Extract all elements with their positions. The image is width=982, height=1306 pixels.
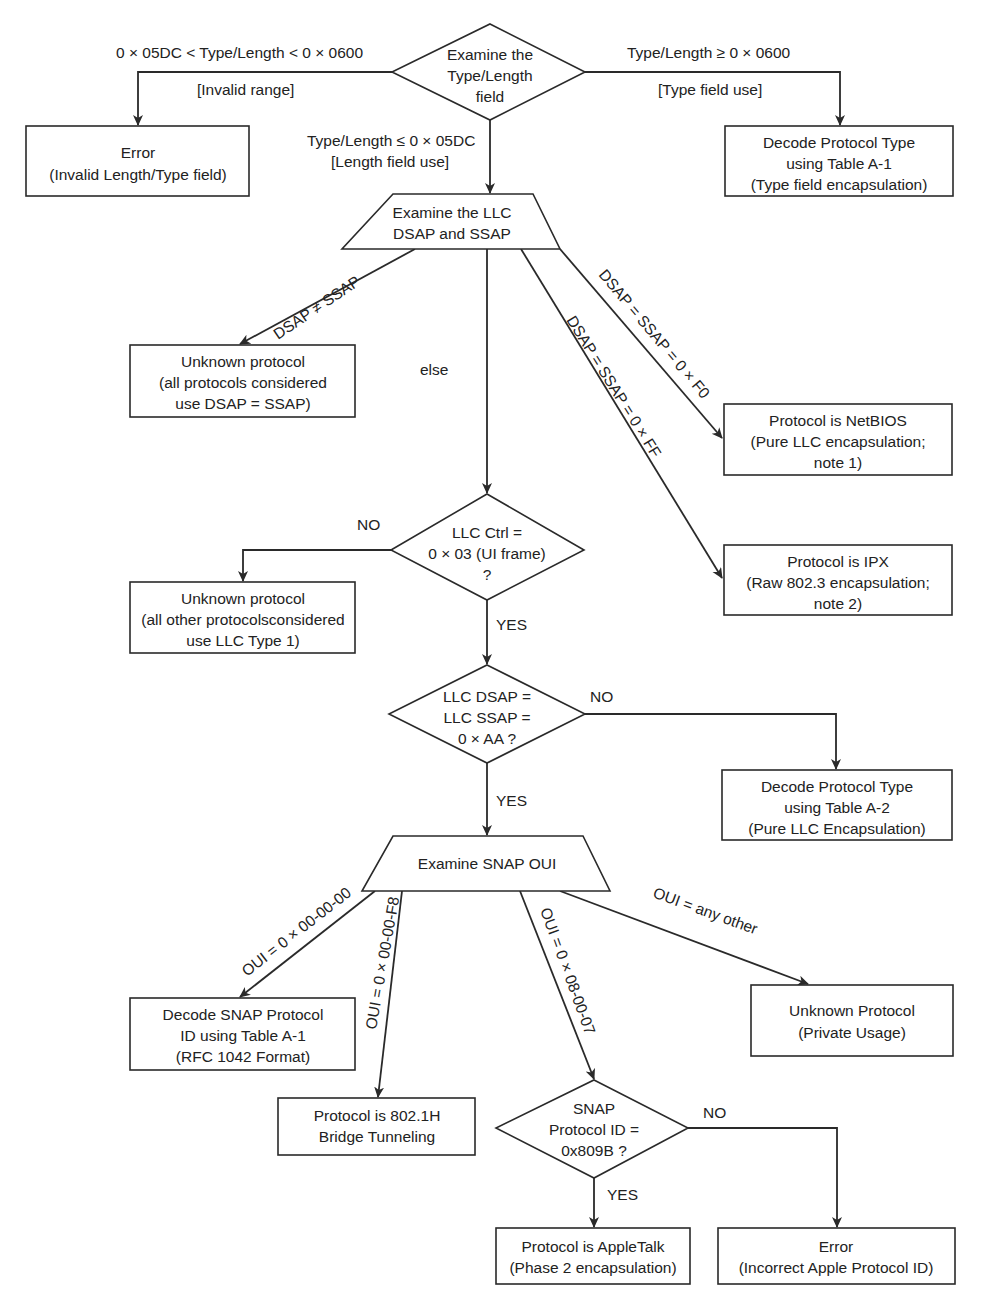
node-line: Examine SNAP OUI: [418, 855, 556, 872]
box-unknown-protocol-llc1: Unknown protocol (all other protocolscon…: [130, 582, 355, 653]
edge-label-else: else: [420, 361, 448, 378]
node-line: Decode Protocol Type: [763, 134, 915, 151]
process-examine-snap-oui: Examine SNAP OUI: [362, 836, 610, 891]
edge-llc-ctrl-no: [243, 550, 391, 581]
box-error-invalid-length: Error (Invalid Length/Type field): [26, 126, 249, 196]
node-line: Unknown Protocol: [789, 1002, 915, 1019]
decision-snap-protocol-id: SNAP Protocol ID = 0x809B ?: [496, 1080, 688, 1178]
node-line: DSAP and SSAP: [393, 225, 511, 242]
edge-label-snap-yes: YES: [607, 1186, 638, 1203]
edge-label-length-field-cond: Type/Length ≤ 0 × 05DC: [307, 132, 475, 149]
node-line: Protocol is 802.1H: [314, 1107, 441, 1124]
node-line: ID using Table A-1: [180, 1027, 306, 1044]
node-line: note 1): [814, 454, 862, 471]
node-line: (Incorrect Apple Protocol ID): [739, 1259, 934, 1276]
node-line: Unknown protocol: [181, 590, 305, 607]
node-line: Error: [121, 144, 155, 161]
edge-label-snap-no: NO: [703, 1104, 726, 1121]
node-line: (Raw 802.3 encapsulation;: [746, 574, 930, 591]
box-bridge-tunneling: Protocol is 802.1H Bridge Tunneling: [278, 1098, 475, 1155]
edge-label-aa-yes: YES: [496, 792, 527, 809]
edge-aa-no: [585, 714, 836, 769]
edge-label-aa-no: NO: [590, 688, 613, 705]
edge-label-oui-080007: OUI = 0 × 08-00-07: [537, 905, 599, 1036]
node-line: (Private Usage): [798, 1024, 906, 1041]
edge-label-length-field-note: [Length field use]: [331, 153, 449, 170]
edge-label-oui-0000f8: OUI = 0 × 00-00-F8: [362, 895, 402, 1030]
node-line: LLC DSAP =: [443, 688, 531, 705]
node-line: (Pure LLC encapsulation;: [751, 433, 926, 450]
box-unknown-protocol-dsap: Unknown protocol (all protocols consider…: [130, 345, 355, 417]
edge-label-dsap-ne-ssap: DSAP ≠ SSAP: [270, 272, 363, 342]
edge-oui-000000: [240, 891, 375, 997]
box-unknown-private: Unknown Protocol (Private Usage): [751, 985, 953, 1056]
node-line: using Table A-2: [784, 799, 890, 816]
node-line: 0 × AA ?: [458, 730, 517, 747]
edge-label-llc-ctrl-no: NO: [357, 516, 380, 533]
box-error-apple-id: Error (Incorrect Apple Protocol ID): [718, 1228, 955, 1284]
node-line: Bridge Tunneling: [319, 1128, 435, 1145]
node-line: Decode SNAP Protocol: [163, 1006, 324, 1023]
edge-label-type-field-note: [Type field use]: [658, 81, 762, 98]
node-line: (Pure LLC Encapsulation): [748, 820, 926, 837]
node-line: LLC SSAP =: [443, 709, 530, 726]
box-ipx: Protocol is IPX (Raw 802.3 encapsulation…: [724, 545, 952, 615]
box-decode-table-a2: Decode Protocol Type using Table A-2 (Pu…: [722, 770, 952, 840]
decision-llc-dsap-ssap-aa: LLC DSAP = LLC SSAP = 0 × AA ?: [389, 665, 585, 763]
node-line: Unknown protocol: [181, 353, 305, 370]
node-line: (Phase 2 encapsulation): [509, 1259, 676, 1276]
node-line: Decode Protocol Type: [761, 778, 913, 795]
node-line: note 2): [814, 595, 862, 612]
node-line: using Table A-1: [786, 155, 892, 172]
node-line: LLC Ctrl =: [452, 524, 522, 541]
edge-label-llc-ctrl-yes: YES: [496, 616, 527, 633]
node-line: (all protocols considered: [159, 374, 327, 391]
node-line: (all other protocolsconsidered: [141, 611, 344, 628]
node-line: use LLC Type 1): [186, 632, 299, 649]
node-line: Examine the: [447, 46, 533, 63]
node-line: 0x809B ?: [561, 1142, 627, 1159]
node-line: Protocol is IPX: [787, 553, 889, 570]
protocol-decode-flowchart: 0 × 05DC < Type/Length < 0 × 0600 [Inval…: [0, 0, 982, 1306]
node-line: ?: [483, 566, 492, 583]
edge-snap-no: [688, 1128, 837, 1227]
edge-label-type-field-cond: Type/Length ≥ 0 × 0600: [627, 44, 791, 61]
edge-label-oui-000000: OUI = 0 × 00-00-00: [238, 884, 354, 980]
box-netbios: Protocol is NetBIOS (Pure LLC encapsulat…: [724, 404, 952, 475]
node-line: (Invalid Length/Type field): [49, 166, 227, 183]
node-line: 0 × 03 (UI frame): [428, 545, 546, 562]
edge-type-field: [585, 72, 840, 125]
node-line: (Type field encapsulation): [751, 176, 928, 193]
node-line: Protocol is AppleTalk: [521, 1238, 664, 1255]
edge-label-invalid-range-note: [Invalid range]: [197, 81, 294, 98]
node-line: Protocol is NetBIOS: [769, 412, 907, 429]
node-line: SNAP: [573, 1100, 615, 1117]
node-line: (RFC 1042 Format): [176, 1048, 310, 1065]
process-examine-llc: Examine the LLC DSAP and SSAP: [342, 194, 560, 249]
node-line: field: [476, 88, 504, 105]
node-line: Protocol ID =: [549, 1121, 639, 1138]
node-line: Error: [819, 1238, 853, 1255]
box-decode-table-a1-type: Decode Protocol Type using Table A-1 (Ty…: [725, 126, 953, 196]
box-appletalk: Protocol is AppleTalk (Phase 2 encapsula…: [496, 1228, 690, 1284]
edge-invalid-range: [138, 72, 392, 125]
decision-llc-ctrl: LLC Ctrl = 0 × 03 (UI frame) ?: [391, 494, 584, 600]
node-line: Type/Length: [447, 67, 532, 84]
decision-examine-type-length: Examine the Type/Length field: [392, 24, 585, 120]
edge-label-invalid-range-cond: 0 × 05DC < Type/Length < 0 × 0600: [116, 44, 363, 61]
edge-label-oui-other: OUI = any other: [651, 884, 760, 938]
node-line: Examine the LLC: [393, 204, 512, 221]
box-decode-snap-a1: Decode SNAP Protocol ID using Table A-1 …: [130, 998, 355, 1070]
node-line: use DSAP = SSAP): [175, 395, 310, 412]
